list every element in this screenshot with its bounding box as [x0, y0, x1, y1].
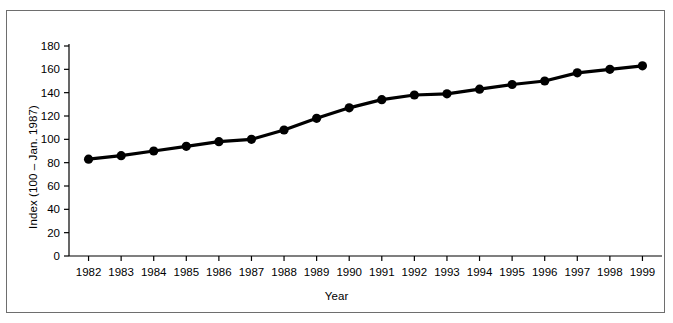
x-tick-label: 1992	[402, 266, 428, 278]
x-tick-label: 1988	[271, 266, 297, 278]
x-tick-label: 1983	[108, 266, 134, 278]
data-point-marker	[442, 89, 451, 98]
x-axis-title: Year	[0, 290, 673, 302]
x-tick-label: 1990	[336, 266, 362, 278]
data-point-marker	[638, 61, 647, 70]
data-point-marker	[573, 68, 582, 77]
data-point-marker	[508, 80, 517, 89]
x-tick-label: 1986	[206, 266, 232, 278]
figure-border: 0204060801001201401601801982198319841985…	[6, 10, 665, 313]
y-tick-label: 20	[47, 227, 60, 239]
y-tick-label: 80	[47, 157, 60, 169]
y-tick-label: 0	[54, 250, 60, 262]
x-tick-label: 1987	[239, 266, 265, 278]
y-tick-label: 140	[41, 87, 60, 99]
y-tick-label: 40	[47, 203, 60, 215]
x-tick-label: 1984	[141, 266, 167, 278]
data-point-marker	[214, 137, 223, 146]
data-point-marker	[182, 142, 191, 151]
data-point-marker	[540, 76, 549, 85]
data-point-marker	[117, 151, 126, 160]
x-tick-label: 1999	[630, 266, 656, 278]
chart-figure: 0204060801001201401601801982198319841985…	[0, 0, 673, 323]
data-point-marker	[410, 90, 419, 99]
data-point-marker	[475, 85, 484, 94]
x-tick-label: 1993	[434, 266, 460, 278]
data-point-marker	[279, 125, 288, 134]
x-tick-label: 1982	[76, 266, 102, 278]
data-line	[89, 66, 643, 159]
y-axis-title: Index (100 – Jan. 1987)	[27, 77, 39, 257]
data-point-marker	[605, 65, 614, 74]
data-point-marker	[247, 135, 256, 144]
x-tick-label: 1989	[304, 266, 330, 278]
y-tick-label: 120	[41, 110, 60, 122]
line-chart-plot: 0204060801001201401601801982198319841985…	[7, 11, 664, 312]
y-tick-label: 180	[41, 40, 60, 52]
data-point-marker	[377, 95, 386, 104]
x-tick-label: 1996	[532, 266, 558, 278]
x-tick-label: 1998	[597, 266, 623, 278]
data-point-marker	[312, 114, 321, 123]
x-tick-label: 1995	[499, 266, 525, 278]
x-tick-label: 1997	[564, 266, 590, 278]
x-tick-label: 1991	[369, 266, 395, 278]
y-tick-label: 100	[41, 133, 60, 145]
data-point-marker	[345, 103, 354, 112]
x-tick-label: 1985	[173, 266, 199, 278]
y-tick-label: 60	[47, 180, 60, 192]
x-tick-label: 1994	[467, 266, 493, 278]
data-point-marker	[149, 146, 158, 155]
data-point-marker	[84, 155, 93, 164]
y-tick-label: 160	[41, 63, 60, 75]
